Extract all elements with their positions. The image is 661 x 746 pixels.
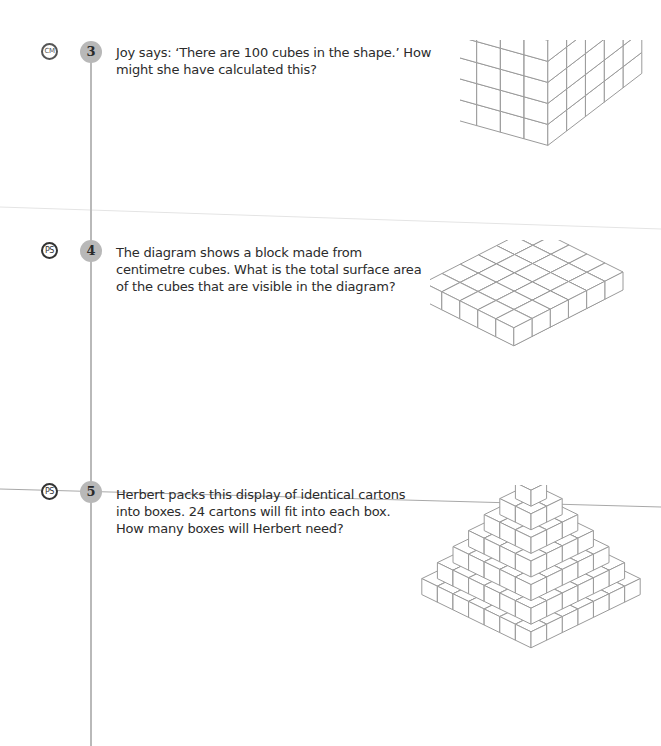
question-number: 3 xyxy=(80,41,102,63)
question-rule xyxy=(90,60,92,746)
ps-badge-icon: PS xyxy=(41,483,58,500)
question-text: Herbert packs this display of identical … xyxy=(116,486,405,537)
question-text: The diagram shows a block made from cent… xyxy=(116,244,421,295)
cuboid-figure xyxy=(460,40,660,240)
question-number: 5 xyxy=(80,481,102,503)
stepped-block-figure xyxy=(430,240,661,480)
question-text: Joy says: ‘There are 100 cubes in the sh… xyxy=(116,44,431,78)
question-number: 4 xyxy=(80,240,102,262)
cm-badge-icon: CM xyxy=(41,43,58,60)
pyramid-figure xyxy=(415,485,661,746)
ps-badge-icon: PS xyxy=(41,242,58,259)
